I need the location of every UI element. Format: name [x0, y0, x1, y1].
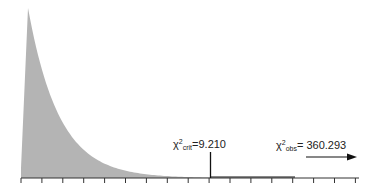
density-area [21, 8, 210, 178]
observed-arrow-head [347, 154, 357, 161]
chi-symbol: χ [173, 138, 179, 150]
observed-value-label: χ2obs= 360.293 [276, 140, 346, 151]
critical-value-label: χ2crit=9.210 [173, 139, 226, 150]
chi-symbol: χ [276, 139, 282, 151]
x-axis-ticks [21, 178, 355, 183]
chi-square-chart [0, 0, 376, 193]
